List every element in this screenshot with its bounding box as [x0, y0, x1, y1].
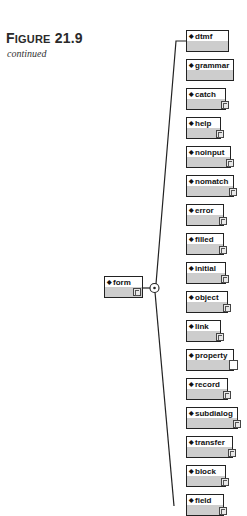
- child-element-catch[interactable]: ◆catch: [186, 88, 226, 110]
- diamond-icon: ◆: [189, 495, 194, 505]
- child-element-field[interactable]: ◆field: [186, 494, 224, 516]
- expand-icon[interactable]: [216, 130, 224, 138]
- child-element-filled[interactable]: ◆filled: [186, 233, 224, 255]
- child-element-property[interactable]: ◆property: [186, 349, 234, 371]
- parent-element-form[interactable]: ◆form: [104, 276, 143, 298]
- diamond-icon: ◆: [189, 89, 194, 99]
- diamond-icon: ◆: [189, 263, 194, 273]
- diamond-icon: ◆: [189, 437, 194, 447]
- element-label: initial: [195, 264, 216, 273]
- element-label: error: [195, 206, 214, 215]
- diamond-icon: ◆: [189, 466, 194, 476]
- child-element-link[interactable]: ◆link: [186, 320, 221, 342]
- child-element-dtmf[interactable]: ◆dtmf: [186, 30, 229, 52]
- diamond-icon: ◆: [189, 147, 194, 157]
- expand-icon[interactable]: [223, 391, 231, 399]
- diamond-icon: ◆: [189, 118, 194, 128]
- child-element-subdialog[interactable]: ◆subdialog: [186, 407, 238, 429]
- expand-icon[interactable]: [221, 478, 229, 486]
- empty-content-icon[interactable]: [229, 360, 238, 370]
- child-element-error[interactable]: ◆error: [186, 204, 224, 226]
- element-label: block: [195, 467, 216, 476]
- expand-icon[interactable]: [221, 101, 229, 109]
- child-element-transfer[interactable]: ◆transfer: [186, 436, 233, 458]
- child-element-record[interactable]: ◆record: [186, 378, 228, 400]
- element-label: record: [195, 380, 220, 389]
- expand-icon[interactable]: [219, 217, 227, 225]
- child-element-block[interactable]: ◆block: [186, 465, 226, 487]
- expand-icon[interactable]: [219, 246, 227, 254]
- element-label: property: [195, 351, 227, 360]
- child-element-noinput[interactable]: ◆noinput: [186, 146, 231, 168]
- diamond-icon: ◆: [189, 60, 194, 70]
- element-label: help: [195, 119, 211, 128]
- element-label: object: [195, 293, 219, 302]
- element-label: nomatch: [195, 177, 228, 186]
- diamond-icon: ◆: [189, 321, 194, 331]
- diamond-icon: ◆: [189, 234, 194, 244]
- expand-icon[interactable]: [233, 420, 241, 428]
- diamond-icon: ◆: [189, 350, 194, 360]
- link-icon[interactable]: [216, 333, 224, 341]
- diamond-icon: ◆: [189, 379, 194, 389]
- child-element-grammar[interactable]: ◆grammar: [186, 59, 234, 81]
- sequence-choice-icon: [150, 284, 159, 293]
- child-element-help[interactable]: ◆help: [186, 117, 221, 139]
- element-label: transfer: [195, 438, 225, 447]
- expand-icon[interactable]: [228, 449, 236, 457]
- connector-line-bottom: [155, 292, 174, 506]
- expand-icon[interactable]: [229, 188, 237, 196]
- diamond-icon: ◆: [107, 277, 112, 287]
- element-label: form: [113, 278, 131, 287]
- expand-icon[interactable]: [226, 159, 234, 167]
- diamond-icon: ◆: [189, 31, 194, 41]
- element-label: subdialog: [195, 409, 233, 418]
- expand-icon[interactable]: [133, 288, 141, 296]
- diamond-icon: ◆: [189, 205, 194, 215]
- element-label: field: [195, 496, 211, 505]
- element-label: grammar: [195, 61, 229, 70]
- element-label: link: [195, 322, 209, 331]
- expand-icon[interactable]: [219, 507, 227, 515]
- diamond-icon: ◆: [189, 176, 194, 186]
- element-label: noinput: [195, 148, 224, 157]
- diamond-icon: ◆: [189, 292, 194, 302]
- expand-icon[interactable]: [221, 275, 229, 283]
- diamond-icon: ◆: [189, 408, 194, 418]
- expand-icon[interactable]: [223, 304, 231, 312]
- element-label: dtmf: [195, 32, 212, 41]
- element-label: filled: [195, 235, 214, 244]
- child-element-nomatch[interactable]: ◆nomatch: [186, 175, 234, 197]
- child-element-initial[interactable]: ◆initial: [186, 262, 226, 284]
- child-element-object[interactable]: ◆object: [186, 291, 228, 313]
- element-label: catch: [195, 90, 216, 99]
- connector-line-top: [156, 41, 186, 284]
